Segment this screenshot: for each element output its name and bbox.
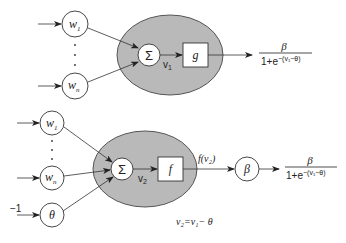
bias-input-label: −1 bbox=[10, 203, 22, 214]
top-weight-node-n: wn bbox=[62, 73, 88, 99]
svg-text:1+e−(v₁−θ): 1+e−(v₁−θ) bbox=[286, 169, 326, 181]
top-weight-node-1: w1 bbox=[62, 11, 88, 37]
top-sum-node: Σ bbox=[138, 44, 160, 66]
activation-output-label: f(v₂) bbox=[198, 153, 216, 165]
bottom-threshold-node: θ bbox=[40, 203, 64, 227]
top-output-formula: β 1+e−(v₁−θ) bbox=[259, 40, 312, 67]
bottom-neuron: −1 w1 wn θ Σ v2 bbox=[10, 111, 337, 227]
svg-text:β: β bbox=[243, 162, 250, 176]
svg-text:β: β bbox=[306, 154, 313, 166]
svg-text:θ: θ bbox=[49, 208, 55, 222]
bottom-scale-node: β bbox=[235, 157, 259, 181]
svg-text:1+e−(v₁−θ): 1+e−(v₁−θ) bbox=[261, 55, 301, 67]
top-ellipsis-dots bbox=[74, 44, 76, 66]
bottom-output-formula: β 1+e−(v₁−θ) bbox=[285, 154, 337, 181]
neuron-diagram: w1 wn Σ v1 g β 1+e−(v₁−θ) bbox=[0, 0, 346, 243]
svg-text:Σ: Σ bbox=[118, 162, 126, 177]
svg-text:g: g bbox=[193, 48, 199, 62]
bottom-ellipsis-dots bbox=[51, 140, 53, 160]
bottom-weight-node-n: wn bbox=[40, 166, 64, 190]
bottom-sum-node: Σ bbox=[111, 158, 133, 180]
bottom-weight-node-1: w1 bbox=[40, 111, 64, 135]
v2-equation: v₂=v₁− θ bbox=[176, 216, 213, 227]
svg-text:Σ: Σ bbox=[145, 48, 153, 63]
top-activation-box: g bbox=[183, 43, 208, 67]
top-neuron: w1 wn Σ v1 g β 1+e−(v₁−θ) bbox=[38, 11, 312, 99]
svg-text:β: β bbox=[280, 40, 287, 52]
bottom-activation-box: f bbox=[158, 157, 183, 181]
